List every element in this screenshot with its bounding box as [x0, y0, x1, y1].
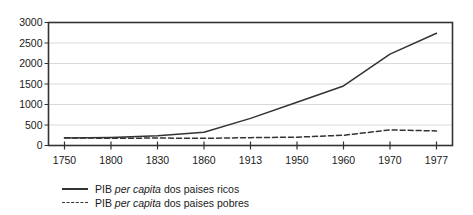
legend-solid-line-icon: [62, 184, 88, 194]
x-tick-label: 1830: [133, 155, 183, 166]
gridlines: [49, 23, 453, 126]
legend-item-label: PIB per capita dos paises pobres: [95, 197, 249, 209]
x-tick-label: 1860: [179, 155, 229, 166]
x-tick-label: 1960: [319, 155, 369, 166]
y-tick-label: 1500: [19, 79, 42, 90]
x-tick-label: 1950: [272, 155, 322, 166]
chart-legend: PIB per capita dos paises ricosPIB per c…: [62, 182, 249, 210]
legend-item: PIB per capita dos paises pobres: [62, 196, 249, 210]
legend-item: PIB per capita dos paises ricos: [62, 182, 249, 196]
x-tick-label: 1913: [226, 155, 276, 166]
legend-dashed-line-icon: [62, 198, 88, 208]
series-line-rich: [65, 33, 437, 138]
y-tick-label: 1000: [19, 99, 42, 110]
legend-item-label: PIB per capita dos paises ricos: [95, 183, 239, 195]
y-tick-label: 2000: [19, 58, 42, 69]
y-tick-label: 3000: [19, 17, 42, 28]
chart-figure: 050010001500200025003000 175018001830186…: [0, 0, 473, 215]
x-tick-label: 1750: [40, 155, 90, 166]
y-tick-label: 500: [25, 120, 43, 131]
x-tick-label: 1970: [365, 155, 415, 166]
y-tick-label: 2500: [19, 38, 42, 49]
x-tick-label: 1800: [86, 155, 136, 166]
x-tick-label: 1977: [412, 155, 462, 166]
y-tick-label: 0: [37, 140, 43, 151]
